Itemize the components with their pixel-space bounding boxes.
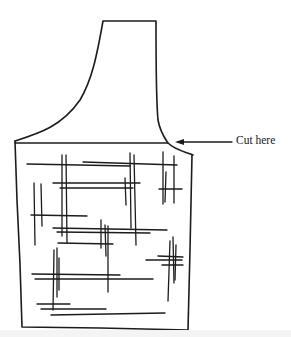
arrow-head-icon xyxy=(175,139,184,145)
cut-here-label: Cut here xyxy=(236,134,275,146)
skirt-panel-outline xyxy=(15,141,192,330)
bib-outline xyxy=(15,21,193,155)
plaid-vertical-lines xyxy=(34,152,176,310)
bottom-band xyxy=(0,330,291,337)
pattern-sketch xyxy=(0,0,291,337)
